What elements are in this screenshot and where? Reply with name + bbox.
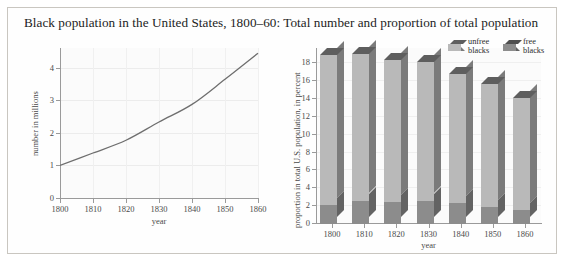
line-y-tick (56, 165, 60, 166)
bar-column (417, 62, 434, 224)
bar-y-tick (312, 134, 316, 135)
bar-y-tick (312, 116, 316, 117)
bar-column (481, 84, 498, 224)
bar-side-unfree-blacks (337, 41, 344, 198)
bar-side-unfree-blacks (466, 60, 473, 196)
bar-y-tick-label: 12 (302, 111, 311, 121)
bar-y-tick (312, 223, 316, 224)
legend-label-unfree-blacks: unfree blacks (468, 37, 489, 55)
legend-unfree-line1: unfree (468, 37, 489, 46)
bar-y-tick-label: 4 (306, 182, 310, 192)
line-x-tick (225, 199, 226, 203)
bar-side-unfree-blacks (401, 46, 408, 195)
line-x-tick-label: 1860 (250, 204, 267, 214)
bar-column (320, 55, 337, 224)
legend-swatch-free-icon (503, 40, 520, 51)
line-y-tick (56, 100, 60, 101)
bar-y-tick-label: 14 (302, 93, 311, 103)
legend-free-line2: blacks (523, 46, 544, 55)
figure-caption: Black population in the United States, 1… (24, 15, 554, 31)
bar-segment-free-blacks (513, 210, 530, 224)
bar-column (513, 98, 530, 224)
bar-y-tick (312, 205, 316, 206)
bar-y-tick-label: 2 (306, 200, 310, 210)
line-x-tick-label: 1840 (184, 204, 201, 214)
bar-side-free-blacks (401, 188, 408, 217)
bar-series-container (316, 48, 542, 224)
bar-x-tick (429, 224, 430, 228)
bar-segment-free-blacks (320, 205, 337, 224)
bar-y-tick (312, 187, 316, 188)
bar-chart: 024681012141618 180018101820183018401850… (284, 38, 556, 250)
line-x-tick-label: 1830 (151, 204, 168, 214)
bar-y-axis-title: proportion in total U.S. population, in … (292, 72, 302, 228)
bar-x-tick (493, 224, 494, 228)
bar-side-unfree-blacks (498, 70, 505, 200)
bar-segment-unfree-blacks (449, 74, 466, 203)
bar-y-tick (312, 152, 316, 153)
line-y-tick-label: 0 (50, 193, 54, 203)
bar-segment-free-blacks (449, 203, 466, 224)
bar-y-tick-label: 10 (302, 129, 311, 139)
bar-y-tick-label: 0 (306, 218, 310, 228)
legend-swatch-unfree-icon (448, 40, 465, 51)
figure-panel: Black population in the United States, 1… (7, 7, 557, 254)
line-x-tick (60, 199, 61, 203)
line-y-tick-label: 4 (50, 63, 54, 73)
line-x-tick (258, 199, 259, 203)
bar-x-tick-label: 1810 (356, 229, 373, 239)
bar-segment-unfree-blacks (352, 54, 369, 200)
bar-side-unfree-blacks (369, 40, 376, 193)
line-y-axis-title: number in millions (30, 91, 40, 156)
bar-x-tick (525, 224, 526, 228)
bar-segment-unfree-blacks (417, 62, 434, 200)
bar-segment-unfree-blacks (481, 84, 498, 207)
bar-segment-free-blacks (352, 201, 369, 224)
bar-y-tick-label: 18 (302, 57, 311, 67)
bar-x-tick-label: 1840 (452, 229, 469, 239)
line-x-tick-label: 1800 (52, 204, 69, 214)
bar-x-tick (332, 224, 333, 228)
line-x-tick-label: 1850 (217, 204, 234, 214)
bar-x-tick-label: 1800 (324, 229, 341, 239)
line-x-tick (126, 199, 127, 203)
bar-y-tick-label: 8 (306, 147, 310, 157)
bar-segment-unfree-blacks (384, 60, 401, 202)
bar-segment-unfree-blacks (320, 55, 337, 205)
bar-x-tick-label: 1860 (516, 229, 533, 239)
bar-x-tick (461, 224, 462, 228)
bar-segment-free-blacks (417, 201, 434, 224)
bar-x-tick-label: 1820 (388, 229, 405, 239)
bar-side-unfree-blacks (530, 84, 537, 203)
bar-y-tick (312, 169, 316, 170)
legend-label-free-blacks: free blacks (523, 37, 544, 55)
bar-x-tick-label: 1830 (420, 229, 437, 239)
bar-segment-free-blacks (481, 207, 498, 224)
bar-side-unfree-blacks (434, 48, 441, 193)
bar-side-free-blacks (337, 191, 344, 217)
bar-segment-free-blacks (384, 202, 401, 224)
bar-y-tick (312, 62, 316, 63)
bar-x-tick (396, 224, 397, 228)
bar-side-free-blacks (369, 187, 376, 217)
line-y-tick-label: 1 (50, 160, 54, 170)
bar-x-axis-title: year (421, 240, 436, 250)
line-y-tick-label: 2 (50, 128, 54, 138)
bar-column (352, 54, 369, 224)
line-series-path (60, 48, 259, 199)
legend-unfree-line2: blacks (468, 46, 489, 55)
bar-y-tick (312, 98, 316, 99)
bar-y-tick-label: 16 (302, 75, 311, 85)
bar-x-tick-label: 1850 (484, 229, 501, 239)
line-x-tick (93, 199, 94, 203)
bar-y-tick (312, 80, 316, 81)
line-y-tick (56, 68, 60, 69)
bar-y-tick-label: 6 (306, 164, 310, 174)
bar-side-free-blacks (466, 189, 473, 217)
line-x-tick (159, 199, 160, 203)
bar-segment-unfree-blacks (513, 98, 530, 210)
bar-column (384, 60, 401, 224)
legend-free-line1: free (523, 37, 536, 46)
line-x-axis-title: year (152, 216, 167, 226)
line-y-tick (56, 133, 60, 134)
